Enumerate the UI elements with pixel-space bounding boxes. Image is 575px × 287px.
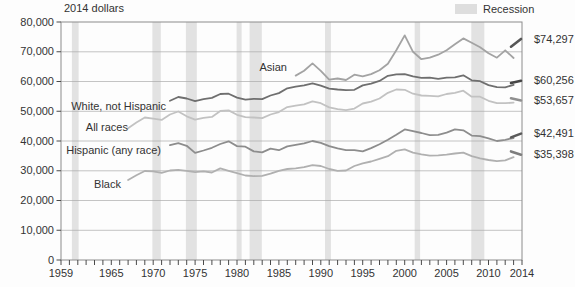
redesign-dash-black (511, 151, 521, 154)
x-tick-label: 1975 (183, 267, 207, 279)
income-chart-figure: 010,00020,00030,00040,00050,00060,00070,… (0, 0, 575, 287)
redesign-dash-asian (511, 39, 521, 47)
series-white-not-hispanic: White, not Hispanic$60,256 (71, 74, 574, 112)
x-tick-label: 2000 (392, 267, 416, 279)
redesign-dash-white-not-hispanic (511, 81, 521, 83)
y-tick-label: 20,000 (20, 194, 54, 206)
series-label-white-not-hispanic: White, not Hispanic (71, 100, 166, 112)
x-tick-label: 2005 (434, 267, 458, 279)
x-tick-label: 1980 (225, 267, 249, 279)
x-tick-label: 2014 (510, 267, 534, 279)
x-tick-label: 1965 (99, 267, 123, 279)
chart-title: 2014 dollars (64, 2, 124, 14)
x-tick-label: 1959 (49, 267, 73, 279)
series-black: Black$35,398 (94, 148, 574, 190)
series-label-all-races: All races (86, 121, 129, 133)
y-tick-label: 0 (48, 254, 54, 266)
redesign-dash-all-races (511, 98, 521, 100)
end-value-label-hispanic: $42,491 (534, 127, 574, 139)
y-tick-label: 10,000 (20, 224, 54, 236)
y-tick-label: 40,000 (20, 135, 54, 147)
series-label-asian: Asian (259, 61, 287, 73)
x-tick-label: 1990 (309, 267, 333, 279)
x-tick-label: 2010 (476, 267, 500, 279)
series-hispanic: Hispanic (any race)$42,491 (66, 127, 574, 156)
end-value-label-black: $35,398 (534, 148, 574, 160)
recession-legend-label: Recession (483, 3, 534, 15)
y-tick-label: 30,000 (20, 164, 54, 176)
x-tick-label: 1970 (141, 267, 165, 279)
x-tick-label: 1985 (267, 267, 291, 279)
y-tick-label: 60,000 (20, 75, 54, 87)
end-value-label-all-races: $53,657 (534, 94, 574, 106)
gridlines (61, 52, 522, 231)
redesign-dash-hispanic (511, 134, 521, 138)
end-value-label-white-not-hispanic: $60,256 (534, 74, 574, 86)
x-tick-label: 1995 (350, 267, 374, 279)
y-tick-label: 50,000 (20, 105, 54, 117)
series-line-white-not-hispanic (170, 74, 514, 101)
series-label-black: Black (94, 178, 121, 190)
y-axis: 010,00020,00030,00040,00050,00060,00070,… (20, 16, 61, 266)
recession-swatch-icon (455, 4, 477, 14)
recession-legend: Recession (455, 3, 534, 15)
y-tick-label: 80,000 (20, 16, 54, 28)
y-tick-label: 70,000 (20, 45, 54, 57)
end-value-label-asian: $74,297 (534, 33, 574, 45)
income-by-race-line-chart: 010,00020,00030,00040,00050,00060,00070,… (0, 0, 575, 287)
x-axis: 1959196519701975198019851990199520002005… (49, 260, 534, 279)
series-label-hispanic: Hispanic (any race) (66, 144, 161, 156)
